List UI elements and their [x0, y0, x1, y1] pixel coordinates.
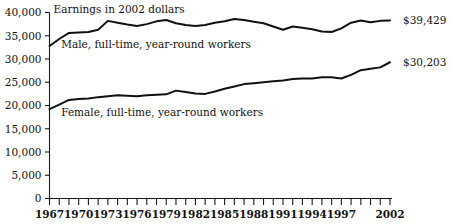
- y-axis-tick-label: 10,000: [5, 146, 42, 158]
- y-axis-tick-label: 35,000: [5, 30, 42, 42]
- y-axis-tick-label: 20,000: [5, 99, 42, 111]
- y-axis-tick-label: 0: [35, 192, 42, 204]
- x-axis-tick-label: 1997: [327, 208, 356, 220]
- male-series-label: Male, full-time, year-round workers: [61, 38, 251, 50]
- male-end-value-label: $39,429: [403, 14, 446, 26]
- earnings-line-chart: 05,00010,00015,00020,00025,00030,00035,0…: [0, 0, 453, 224]
- female-end-value-label: $30,203: [403, 56, 446, 68]
- y-axis-tick-label: 5,000: [11, 169, 41, 181]
- x-axis-tick-label: 1985: [210, 208, 239, 220]
- y-axis-tick-label: 30,000: [5, 53, 42, 65]
- y-axis-tick-label: 15,000: [5, 123, 42, 135]
- female-series-label: Female, full-time, year-round workers: [61, 106, 263, 118]
- x-axis-tick-label: 1976: [122, 208, 151, 220]
- x-axis-tick-label: 1994: [298, 208, 327, 220]
- x-axis-tick-label: 1967: [35, 208, 64, 220]
- x-axis-tick-label: 2002: [375, 208, 404, 220]
- x-axis-tick-label: 1979: [152, 208, 181, 220]
- y-axis-tick-label: 40,000: [5, 6, 42, 18]
- chart-title: Earnings in 2002 dollars: [54, 3, 185, 15]
- x-axis-tick-label: 1982: [181, 208, 210, 220]
- x-axis-tick-label: 1973: [93, 208, 122, 220]
- female-earnings-line: [50, 62, 391, 109]
- x-axis-tick-label: 1988: [239, 208, 268, 220]
- x-axis-tick-label: 1991: [268, 208, 297, 220]
- x-axis-tick-label: 1970: [64, 208, 93, 220]
- y-axis-tick-label: 25,000: [5, 76, 42, 88]
